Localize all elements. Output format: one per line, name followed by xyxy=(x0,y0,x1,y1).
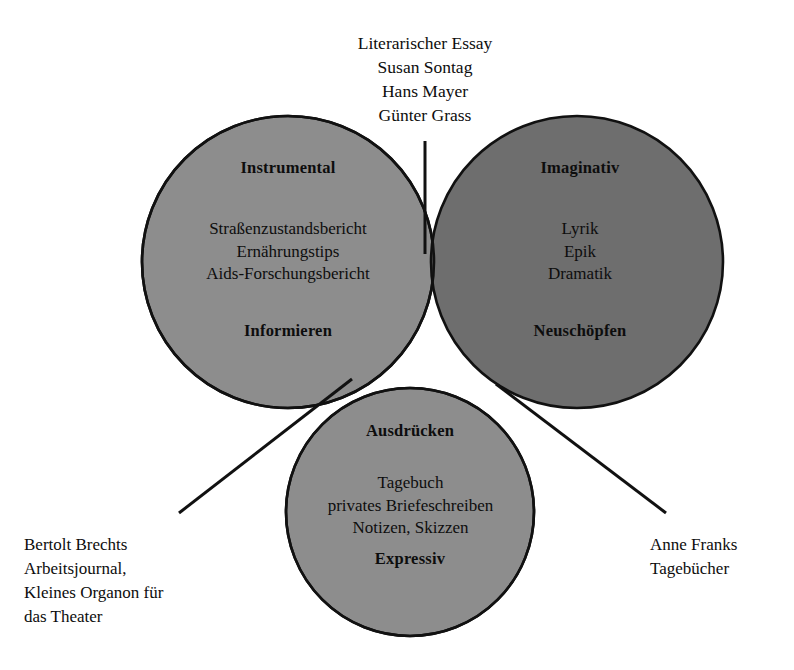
label-neuschoepfen: Neuschöpfen xyxy=(487,320,673,342)
label-instrumental: Instrumental xyxy=(188,157,388,179)
items-imaginativ: Lyrik Epik Dramatik xyxy=(500,218,660,286)
venn-diagram: Literarischer Essay Susan Sontag Hans Ma… xyxy=(0,0,794,670)
label-informieren: Informieren xyxy=(188,320,388,342)
bertolt-brecht-note: Bertolt Brechts Arbeitsjournal, Kleines … xyxy=(24,533,239,630)
label-imaginativ: Imaginativ xyxy=(490,157,670,179)
items-expressiv: Tagebuch privates Briefeschreiben Notize… xyxy=(288,472,533,540)
items-instrumental: Straßenzustandsbericht Ernährungstips Ai… xyxy=(168,218,408,286)
label-expressiv: Expressiv xyxy=(330,548,490,570)
anne-frank-note: Anne Franks Tagebücher xyxy=(650,533,794,581)
label-ausdruecken: Ausdrücken xyxy=(320,420,500,442)
literarischer-essay-note: Literarischer Essay Susan Sontag Hans Ma… xyxy=(325,31,525,128)
